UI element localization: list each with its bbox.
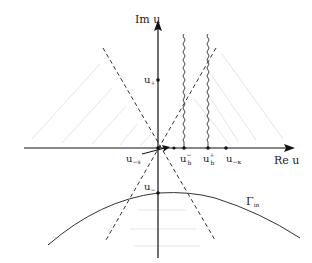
lower-shaded-region [130,210,200,246]
u-b-plus-label: u+b [203,151,214,166]
complex-plane-diagram: Im u Re u u+ u− u−s u−b u+b u−κ Γin [0,0,312,263]
gamma-in-contour [48,193,300,245]
u-plus-label: u+ [144,74,155,86]
u-b-minus-label: u−b [180,151,191,166]
u-minus-kappa-label: u−κ [226,153,241,165]
imaginary-axis-label: Im u [135,13,160,26]
real-axis-label: Re u [274,154,299,167]
axes [24,26,290,258]
left-shaded-region [32,64,150,146]
dashed-asymptotes [103,48,216,240]
u-minus-s-label: u−s [126,153,141,165]
points [156,78,228,195]
branch-cuts [183,34,209,148]
gamma-in-label: Γin [246,195,260,208]
u-minus-label: u− [144,181,155,193]
